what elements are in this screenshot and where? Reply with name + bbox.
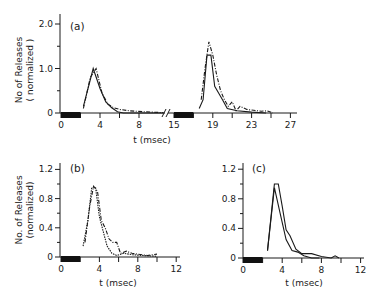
panel-a: No of Releases ( normalized ) (a) t (mse… <box>14 14 297 145</box>
y-tick-label: 0.4 <box>222 223 237 233</box>
y-tick-label: 1.0 <box>39 64 54 74</box>
y-tick-label: 0.4 <box>39 223 54 233</box>
series-dash-dot <box>201 42 273 113</box>
panel-a-xlabel: t (msec) <box>133 135 170 145</box>
series-solid <box>83 69 163 114</box>
series-dash-dot <box>85 186 157 255</box>
x-tick-label: 8 <box>136 120 142 130</box>
panel-a-ylabel: No of Releases <box>14 36 24 103</box>
x-tick-label: 23 <box>246 120 257 130</box>
stimulus-bar <box>61 112 81 118</box>
x-tick-label: 0 <box>58 264 64 274</box>
y-tick-label: 1.2 <box>39 164 53 174</box>
y-tick-label: 0.8 <box>222 194 237 204</box>
x-tick-label: 4 <box>97 264 103 274</box>
panel-c-axes <box>238 163 364 263</box>
panel-b-series <box>83 186 157 256</box>
panel-b-ylabel: No. of Releases <box>14 175 24 245</box>
panel-c-series <box>268 184 340 258</box>
y-tick-label: 0 <box>47 252 53 262</box>
x-tick-label: 12 <box>170 264 181 274</box>
panel-c-label: (c) <box>252 162 266 174</box>
panel-a-label: (a) <box>70 20 85 32</box>
y-tick-label: 0 <box>47 108 53 118</box>
y-tick-label: 1.2 <box>222 164 236 174</box>
panel-b-xlabel: t (msec) <box>99 278 136 288</box>
x-tick-label: 8 <box>319 265 325 275</box>
y-tick-label: 0.8 <box>39 194 54 204</box>
stimulus-bar <box>61 256 80 262</box>
x-tick-label: 15 <box>168 120 179 130</box>
panel-a-series <box>83 42 273 113</box>
series-solid <box>199 55 266 113</box>
panel-b-ylabel-sub: (normalized) <box>25 181 35 238</box>
panel-b-axes <box>55 163 180 262</box>
panel-b: No. of Releases (normalized) (b) t (msec… <box>14 162 182 288</box>
x-tick-label: 27 <box>285 120 296 130</box>
panel-a-axes <box>55 14 297 118</box>
panel-b-label: (b) <box>70 162 85 174</box>
stimulus-bar <box>174 112 193 118</box>
y-tick-label: 2.0 <box>39 19 54 29</box>
series-solid-1 <box>268 184 340 258</box>
panel-a-ylabel-sub: ( normalized ) <box>25 39 35 102</box>
y-tick-label: 0 <box>230 253 236 263</box>
series-dotted-solid <box>83 188 157 257</box>
x-tick-label: 0 <box>240 265 246 275</box>
stimulus-bar <box>243 257 263 263</box>
x-tick-label: 19 <box>207 120 219 130</box>
panel-c: (c) t (msec) 00.40.81.204812 <box>222 162 367 288</box>
x-tick-label: 12 <box>355 265 366 275</box>
x-tick-label: 4 <box>97 120 103 130</box>
panel-c-xlabel: t (msec) <box>285 278 322 288</box>
x-tick-label: 0 <box>58 120 64 130</box>
series-solid-2 <box>268 188 320 258</box>
figure: No of Releases ( normalized ) (a) t (mse… <box>0 0 380 303</box>
x-tick-label: 4 <box>279 265 285 275</box>
x-tick-label: 8 <box>135 264 141 274</box>
